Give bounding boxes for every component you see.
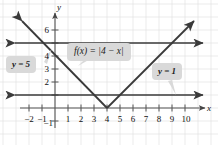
svg-text:1: 1 [66, 114, 71, 124]
svg-text:−2: −2 [24, 114, 34, 124]
svg-text:3: 3 [92, 114, 97, 124]
svg-text:10: 10 [182, 114, 192, 124]
line-label-y-equals-5: y = 5 [6, 56, 36, 73]
y-axis-label: y [57, 2, 61, 12]
svg-text:6: 6 [45, 25, 50, 35]
svg-text:2: 2 [79, 114, 84, 124]
svg-text:−1: −1 [43, 118, 53, 128]
y-tick-labels: 6 4 3 2 −1 [43, 25, 53, 128]
svg-text:5: 5 [118, 114, 123, 124]
svg-text:4: 4 [105, 114, 110, 124]
svg-text:3: 3 [45, 64, 50, 74]
function-equation-label: f(x) = |4 − x| [67, 43, 131, 61]
figure-container: −2 −1 1 2 3 4 5 6 7 8 9 10 6 4 3 2 −1 y … [0, 0, 218, 145]
svg-text:4: 4 [45, 51, 50, 61]
svg-text:9: 9 [170, 114, 175, 124]
line-label-y-equals-1: y = 1 [152, 63, 182, 80]
svg-text:2: 2 [45, 77, 50, 87]
svg-text:7: 7 [144, 114, 149, 124]
svg-text:8: 8 [157, 114, 162, 124]
svg-text:6: 6 [131, 114, 136, 124]
x-axis-label: x [207, 103, 211, 113]
